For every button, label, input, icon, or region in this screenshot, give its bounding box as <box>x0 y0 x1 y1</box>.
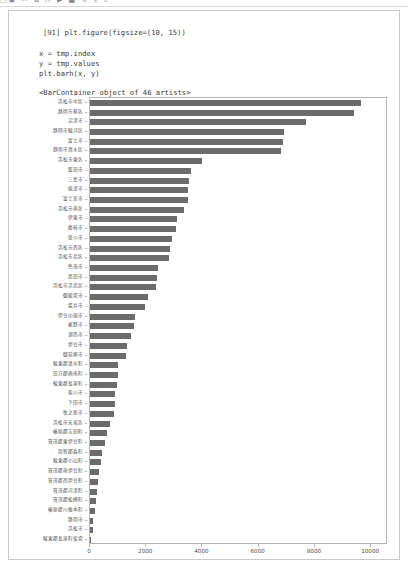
y-tick-mark <box>85 199 88 200</box>
bar-row <box>90 178 386 184</box>
bar <box>90 294 148 300</box>
y-tick-label: 榛原郡川根本町 <box>48 507 83 513</box>
bar <box>90 382 117 388</box>
bar <box>90 236 172 242</box>
bar <box>90 391 115 397</box>
bar <box>90 527 93 533</box>
bar <box>90 148 281 154</box>
bar-row <box>90 518 386 524</box>
y-tick-label: 藤枝市 <box>68 225 83 231</box>
y-tick-label: 賀茂郡東伊豆町 <box>48 439 83 445</box>
bar <box>90 508 95 514</box>
x-tick-mark <box>145 544 146 547</box>
bar <box>90 129 284 135</box>
bar <box>90 187 188 193</box>
y-tick-label: 浜松市 <box>68 526 83 532</box>
y-tick-mark <box>85 218 88 219</box>
y-tick-label: 菊川市 <box>68 390 83 396</box>
bar <box>90 100 361 106</box>
bar-row <box>90 323 386 329</box>
bar-row <box>90 537 386 543</box>
y-tick-mark <box>85 471 88 472</box>
bar-row <box>90 527 386 533</box>
code-line-0: [91] plt.figure(figsize=(10, 15)) <box>17 18 387 49</box>
execution-count-label: [91] <box>43 28 60 37</box>
y-tick-mark <box>85 267 88 268</box>
y-tick-label: 湖西市 <box>68 332 83 338</box>
bar <box>90 246 170 252</box>
y-tick-mark <box>85 539 88 540</box>
bar <box>90 139 283 145</box>
toolbar-icons[interactable]: ▢▣ ✂ ⧉ ⎘ ▶ ■ ↻ ⤓ ⌄ <box>0 0 111 4</box>
bar-row <box>90 430 386 436</box>
y-tick-mark <box>85 160 88 161</box>
bar-row <box>90 353 386 359</box>
bar-row <box>90 333 386 339</box>
bar-row <box>90 362 386 368</box>
y-tick-mark <box>85 500 88 501</box>
y-tick-label: 静岡市駿河区 <box>53 128 83 134</box>
x-tick-label: 6000 <box>251 548 265 554</box>
bar-row <box>90 275 386 281</box>
y-tick-mark <box>85 316 88 317</box>
notebook-cell[interactable]: [91] plt.figure(figsize=(10, 15)) x = tm… <box>8 10 400 560</box>
bar-row <box>90 411 386 417</box>
bar-row <box>90 508 386 514</box>
y-tick-label: 裾野市 <box>68 322 83 328</box>
bar-row <box>90 216 386 222</box>
bar <box>90 411 114 417</box>
y-tick-label: 伊豆の国市 <box>58 313 83 319</box>
y-tick-mark <box>85 121 88 122</box>
bar <box>90 421 110 427</box>
bar-row <box>90 236 386 242</box>
y-tick-label: 島田市 <box>68 274 83 280</box>
bar-row <box>90 489 386 495</box>
y-tick-label: 焼津市 <box>68 186 83 192</box>
bar <box>90 168 191 174</box>
bar <box>90 479 98 485</box>
x-tick-label: 0 <box>87 548 91 554</box>
bar <box>90 323 134 329</box>
y-tick-mark <box>85 345 88 346</box>
y-axis-labels: 浜松市中区静岡市葵区沼津市静岡市駿河区富士市静岡市清水区浜松市東区磐田市三島市焼… <box>9 97 87 544</box>
bar <box>90 226 176 232</box>
y-tick-mark <box>85 510 88 511</box>
x-tick-label: 10000 <box>361 548 379 554</box>
bar <box>90 314 135 320</box>
bar-row <box>90 168 386 174</box>
bar-row <box>90 139 386 145</box>
y-tick-label: 沼津市 <box>68 118 83 124</box>
y-tick-mark <box>85 461 88 462</box>
code-statement-0: plt.figure(figsize=(10, 15)) <box>65 28 186 37</box>
bar-row <box>90 255 386 261</box>
y-tick-label: 浜松市天竜区 <box>53 420 83 426</box>
y-tick-mark <box>85 286 88 287</box>
y-tick-label: 榛原郡吉田町 <box>53 429 83 435</box>
y-tick-label: 掛川市 <box>68 235 83 241</box>
notebook-toolbar-strip[interactable]: ▢▣ ✂ ⧉ ⎘ ▶ ■ ↻ ⤓ ⌄ <box>0 0 408 7</box>
bar <box>90 459 101 465</box>
bar <box>90 537 91 543</box>
y-tick-label: 賀茂郡松崎町 <box>53 497 83 503</box>
y-tick-label: 袋井市 <box>68 303 83 309</box>
bar <box>90 518 93 524</box>
y-tick-label: 静岡市 <box>68 517 83 523</box>
y-tick-mark <box>85 277 88 278</box>
bar-row <box>90 440 386 446</box>
bar-row <box>90 148 386 154</box>
y-tick-mark <box>85 131 88 132</box>
y-tick-label: 浜松市西区 <box>58 245 83 251</box>
bar-row <box>90 226 386 232</box>
bar <box>90 265 158 271</box>
bar-row <box>90 304 386 310</box>
y-tick-label: 駿東郡長泉町役場 <box>43 536 83 542</box>
code-line-2: y = tmp.values <box>17 59 387 69</box>
bar <box>90 304 145 310</box>
bar-row <box>90 421 386 427</box>
bar-row <box>90 401 386 407</box>
bar-row <box>90 498 386 504</box>
y-tick-label: 賀茂郡河津町 <box>53 488 83 494</box>
y-tick-label: 富士宮市 <box>63 196 83 202</box>
bar <box>90 440 105 446</box>
y-tick-label: 浜松市北区 <box>58 254 83 260</box>
